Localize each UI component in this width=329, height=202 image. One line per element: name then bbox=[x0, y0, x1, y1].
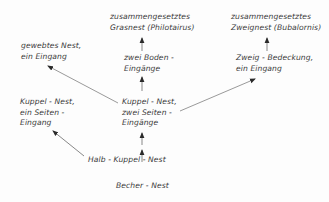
node-dome-nest-two-side-entrances: Kuppel - Nest, zwei Seiten - Eingänge bbox=[122, 97, 177, 129]
node-cup-nest: Becher - Nest bbox=[116, 181, 169, 192]
node-dome-nest-one-side-entrance: Kuppel - Nest, ein Seiten - Eingang bbox=[20, 97, 75, 129]
node-grass-compound-nest: zusammengesetztes Grasnest (Philotairus) bbox=[110, 12, 194, 33]
node-twig-cover: Zweig - Bedeckung, ein Eingang bbox=[236, 53, 313, 74]
node-two-floor-entrances: zwei Boden - Eingänge bbox=[124, 53, 174, 74]
node-twig-compound-nest: zusammengesetztes Zweignest (Bubalornis) bbox=[231, 12, 321, 33]
node-woven-nest: gewebtes Nest, ein Eingang bbox=[21, 41, 81, 62]
arrow-dome-two-side-to-twig-cover bbox=[180, 79, 255, 111]
arrow-half-dome-to-dome-one-side bbox=[53, 131, 84, 156]
node-half-dome-nest: Halb - Kuppel - Nest bbox=[88, 155, 166, 166]
nest-evolution-diagram: zusammengesetztes Grasnest (Philotairus)… bbox=[0, 0, 329, 202]
